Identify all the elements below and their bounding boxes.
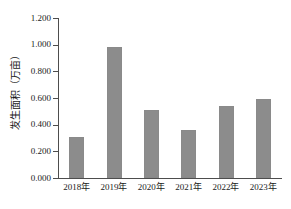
y-axis-tick-label: 0.400: [3, 120, 51, 129]
y-axis-tick-label: 1.000: [3, 40, 51, 49]
y-axis-tick-label: 0.600: [3, 94, 51, 103]
bar: [181, 130, 196, 178]
x-axis-tick-label: 2021年: [170, 181, 207, 193]
bar: [144, 110, 159, 178]
bar: [256, 99, 271, 178]
x-axis-tick-label: 2022年: [207, 181, 244, 193]
y-axis-tick-label: 0.800: [3, 67, 51, 76]
x-axis-tick-labels: 2018年2019年2020年2021年2022年2023年: [58, 181, 282, 197]
y-axis-tick-labels: 0.0000.2000.4000.6000.8001.0001.200: [0, 0, 51, 209]
x-axis-tick-label: 2023年: [245, 181, 282, 193]
y-axis-tick-label: 0.200: [3, 147, 51, 156]
x-axis-tick-label: 2018年: [58, 181, 95, 193]
plot-area: [58, 18, 282, 178]
y-axis-tick-label: 1.200: [3, 14, 51, 23]
bar: [219, 106, 234, 178]
x-axis-tick-label: 2020年: [133, 181, 170, 193]
bar: [107, 47, 122, 178]
bar-chart: 发生面积（万亩） 0.0000.2000.4000.6000.8001.0001…: [0, 0, 291, 209]
x-axis-tick-label: 2019年: [95, 181, 132, 193]
x-axis-line: [58, 178, 282, 179]
y-axis-tick-label: 0.000: [3, 174, 51, 183]
bar: [69, 137, 84, 178]
